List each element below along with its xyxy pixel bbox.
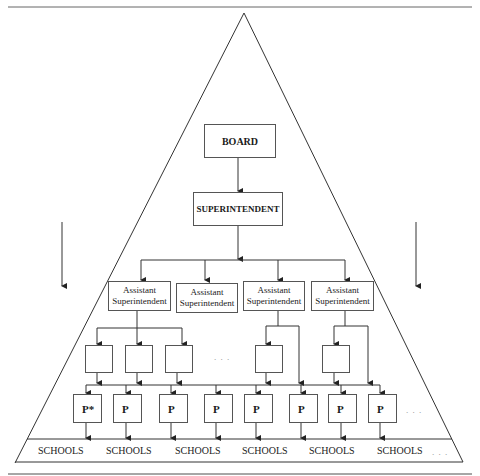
schools-label: SCHOOLS [38,445,84,456]
principal-label: P [298,403,305,415]
assistant-superintendent-box: Assistant Superintendent [108,281,171,311]
principal-box: P [204,394,233,423]
principal-label: P* [82,403,94,415]
ellipsis-sub-level: . . . [214,352,230,362]
superintendent-label: SUPERINTENDENT [196,204,279,214]
principal-box: P [113,394,142,423]
sub-unit-box [255,345,283,373]
principal-box: P [159,394,188,423]
principal-box: P* [73,394,102,423]
schools-label: SCHOOLS [175,445,221,456]
assistant-superintendent-box: Assistant Superintendent [311,281,374,311]
schools-label: SCHOOLS [106,445,152,456]
ellipsis-schools: . . . [432,447,448,457]
principal-label: P [168,403,175,415]
schools-label: SCHOOLS [377,445,423,456]
principal-label: P [213,403,220,415]
board-box: BOARD [204,124,276,158]
sub-unit-box [125,345,153,373]
assistant-label-line1: Assistant [326,285,359,296]
sub-unit-box [165,345,193,373]
principal-label: P [377,403,384,415]
assistant-superintendent-box: Assistant Superintendent [243,281,305,311]
principal-label: P [253,403,260,415]
assistant-label-line2: Superintendent [112,296,167,307]
principal-box: P [368,394,397,423]
assistant-label-line1: Assistant [190,287,223,298]
principal-box: P [328,394,357,423]
assistant-label-line2: Superintendent [180,298,235,309]
board-label: BOARD [222,136,258,147]
principal-box: P [289,394,318,423]
sub-unit-box [85,345,113,373]
assistant-label-line2: Superintendent [247,296,302,307]
assistant-label-line1: Assistant [257,285,290,296]
assistant-label-line2: Superintendent [315,296,370,307]
hierarchy-diagram: BOARD SUPERINTENDENT Assistant Superinte… [0,0,480,476]
superintendent-box: SUPERINTENDENT [193,192,283,226]
assistant-label-line1: Assistant [123,285,156,296]
ellipsis-principal-level: . . . [406,405,422,415]
schools-label: SCHOOLS [309,445,355,456]
assistant-superintendent-box: Assistant Superintendent [176,283,238,313]
sub-unit-box [322,345,350,373]
principal-label: P [337,403,344,415]
schools-label: SCHOOLS [242,445,288,456]
principal-label: P [122,403,129,415]
principal-box: P [244,394,273,423]
